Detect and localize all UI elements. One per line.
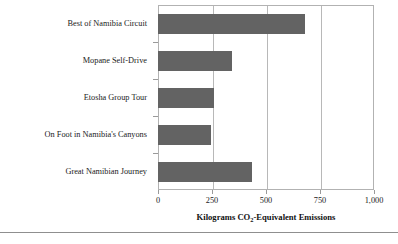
bar-0	[158, 14, 305, 34]
x-tick-1,000	[374, 190, 375, 194]
category-label-4: Great Namibian Journey	[65, 167, 147, 177]
bar-1	[158, 51, 232, 71]
category-label-3: On Foot in Namibia's Canyons	[45, 130, 147, 140]
page-divider-rule	[0, 232, 398, 233]
bar-row	[158, 88, 374, 108]
x-tick-label-750: 750	[314, 195, 326, 206]
x-tick-label-1,000: 1,000	[365, 195, 384, 206]
category-axis-labels: Best of Namibia CircuitMopane Self-Drive…	[0, 5, 153, 190]
x-tick-label-250: 250	[206, 195, 218, 206]
bar-row	[158, 162, 374, 182]
category-label-1: Mopane Self-Drive	[83, 56, 147, 66]
chart-figure: Best of Namibia CircuitMopane Self-Drive…	[0, 0, 398, 244]
category-tick-2	[153, 116, 158, 117]
x-axis-title: Kilograms CO2-Equivalent Emissions	[158, 212, 374, 222]
category-tick-3	[153, 153, 158, 154]
x-tick-label-500: 500	[260, 195, 272, 206]
bar-row	[158, 125, 374, 145]
x-tick-500	[266, 190, 267, 194]
x-tick-label-0: 0	[156, 195, 160, 206]
bar-4	[158, 162, 252, 182]
bar-3	[158, 125, 211, 145]
category-tick-1	[153, 79, 158, 80]
category-label-2: Etosha Group Tour	[84, 93, 147, 103]
bar-row	[158, 51, 374, 71]
bar-2	[158, 88, 214, 108]
x-tick-250	[212, 190, 213, 194]
category-tick-0	[153, 42, 158, 43]
x-tick-0	[158, 190, 159, 194]
bars-layer	[158, 5, 374, 190]
x-tick-750	[320, 190, 321, 194]
bar-row	[158, 14, 374, 34]
category-label-0: Best of Namibia Circuit	[68, 19, 148, 29]
